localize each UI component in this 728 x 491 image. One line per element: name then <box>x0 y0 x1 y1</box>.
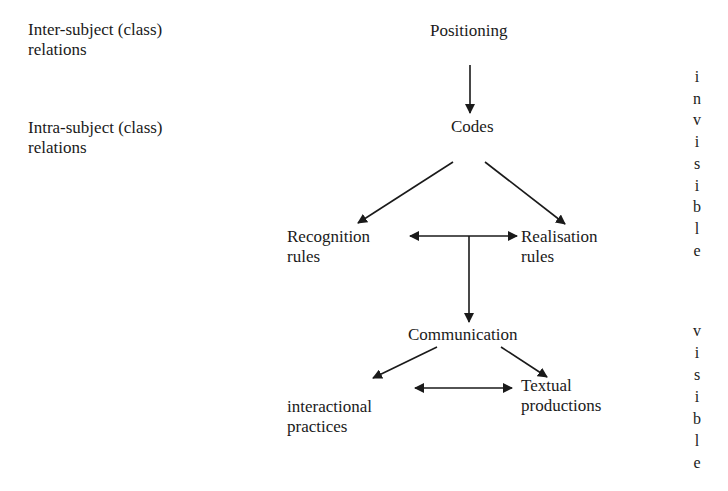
arrow-communication-textual <box>501 347 547 377</box>
arrow-codes-recognition <box>358 162 453 223</box>
diagram-arrows <box>0 0 728 491</box>
arrow-communication-interactional <box>373 347 437 378</box>
arrow-codes-realisation <box>485 162 565 224</box>
